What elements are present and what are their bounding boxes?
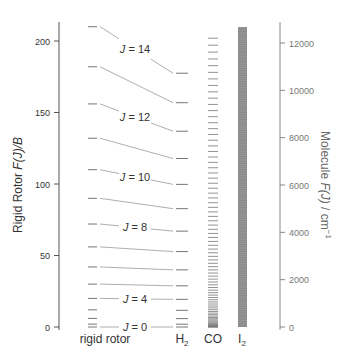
level-connector [151,59,173,73]
level-connector [100,247,173,252]
level-connector [100,224,119,226]
j-label: J = 8 [122,221,147,233]
rigid-rotor-levels [88,27,97,327]
column-labels: rigid rotor H2 CO I2 [80,332,247,348]
level-connector [151,180,173,184]
right-tick-label: 0 [289,323,294,333]
right-tick-label: 2000 [289,275,309,285]
level-connector [100,27,119,39]
level-connector [100,138,173,158]
left-tick-label: 0 [45,323,50,333]
level-connector [100,104,119,111]
right-tick-label: 6000 [289,181,309,191]
j-labels: J = 0J = 4J = 8J = 10J = 12J = 14 [119,43,150,333]
label-i2: I2 [238,332,246,348]
j-label: J = 10 [119,171,150,183]
level-connector [100,267,173,270]
level-connector [151,123,173,131]
left-axis: 050100150200 Rigid Rotor F(J)/B [11,22,59,333]
left-axis-label: Rigid Rotor F(J)/B [11,137,25,233]
right-tick-label: 8000 [289,133,309,143]
right-tick-label: 10000 [289,86,314,96]
h2-levels [176,73,188,327]
j-label: J = 4 [122,293,147,305]
level-connector [100,67,173,103]
level-connector [100,170,119,174]
left-tick-label: 50 [40,251,50,261]
label-co: CO [204,332,222,346]
right-tick-label: 4000 [289,228,309,238]
level-connector [151,229,173,231]
right-axis-label: Molecule F(J) / cm−1 [318,131,333,239]
left-tick-label: 100 [35,180,50,190]
label-rigid-rotor: rigid rotor [80,332,131,346]
j-label: J = 12 [119,111,150,123]
label-h2: H2 [175,332,189,348]
left-tick-label: 150 [35,108,50,118]
left-tick-label: 200 [35,37,50,47]
co-levels [208,38,218,327]
energy-level-diagram: 050100150200 Rigid Rotor F(J)/B 02000400… [0,0,343,363]
i2-levels [238,27,247,327]
level-connector [100,284,173,286]
j-label: J = 14 [119,43,150,55]
right-tick-label: 12000 [289,39,314,49]
right-axis: 020004000600080001000012000 Molecule F(J… [280,22,333,333]
level-connector [100,198,173,208]
